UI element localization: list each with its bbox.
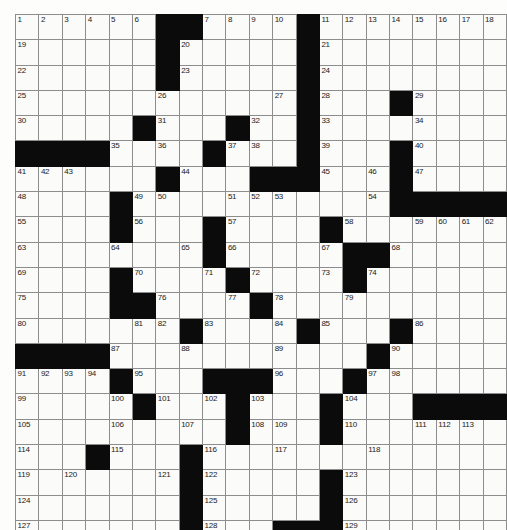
open-cell[interactable] [226, 343, 249, 368]
open-cell[interactable] [156, 445, 179, 470]
open-cell[interactable]: 88 [179, 343, 202, 368]
open-cell[interactable]: 29 [413, 90, 436, 115]
open-cell[interactable]: 112 [436, 419, 459, 444]
open-cell[interactable] [366, 217, 389, 242]
open-cell[interactable] [109, 65, 132, 90]
open-cell[interactable]: 67 [319, 242, 342, 267]
open-cell[interactable]: 20 [179, 40, 202, 65]
open-cell[interactable]: 11 [319, 15, 342, 40]
open-cell[interactable]: 81 [132, 318, 155, 343]
open-cell[interactable] [413, 470, 436, 495]
open-cell[interactable]: 113 [460, 419, 483, 444]
open-cell[interactable] [39, 470, 62, 495]
open-cell[interactable] [179, 394, 202, 419]
open-cell[interactable] [319, 293, 342, 318]
open-cell[interactable] [413, 65, 436, 90]
open-cell[interactable] [460, 116, 483, 141]
open-cell[interactable]: 55 [16, 217, 39, 242]
open-cell[interactable] [436, 445, 459, 470]
open-cell[interactable]: 95 [132, 369, 155, 394]
open-cell[interactable] [460, 495, 483, 520]
open-cell[interactable] [296, 242, 319, 267]
open-cell[interactable]: 108 [249, 419, 272, 444]
open-cell[interactable] [483, 470, 507, 495]
open-cell[interactable] [390, 394, 413, 419]
open-cell[interactable]: 71 [203, 267, 226, 292]
open-cell[interactable] [62, 116, 85, 141]
open-cell[interactable] [483, 369, 507, 394]
open-cell[interactable]: 120 [62, 470, 85, 495]
open-cell[interactable] [132, 40, 155, 65]
open-cell[interactable] [343, 192, 366, 217]
open-cell[interactable] [203, 293, 226, 318]
open-cell[interactable] [179, 192, 202, 217]
open-cell[interactable]: 39 [319, 141, 342, 166]
open-cell[interactable]: 87 [109, 343, 132, 368]
open-cell[interactable] [413, 242, 436, 267]
open-cell[interactable]: 57 [226, 217, 249, 242]
open-cell[interactable] [366, 65, 389, 90]
open-cell[interactable] [436, 318, 459, 343]
open-cell[interactable] [62, 192, 85, 217]
open-cell[interactable] [390, 470, 413, 495]
open-cell[interactable] [460, 445, 483, 470]
open-cell[interactable] [109, 90, 132, 115]
open-cell[interactable] [436, 166, 459, 191]
open-cell[interactable] [366, 40, 389, 65]
open-cell[interactable] [203, 116, 226, 141]
open-cell[interactable] [226, 445, 249, 470]
open-cell[interactable] [226, 470, 249, 495]
open-cell[interactable]: 54 [366, 192, 389, 217]
open-cell[interactable]: 98 [390, 369, 413, 394]
open-cell[interactable]: 45 [319, 166, 342, 191]
open-cell[interactable] [390, 419, 413, 444]
open-cell[interactable] [203, 419, 226, 444]
open-cell[interactable] [296, 394, 319, 419]
open-cell[interactable]: 89 [273, 343, 296, 368]
open-cell[interactable] [343, 343, 366, 368]
open-cell[interactable]: 10 [273, 15, 296, 40]
open-cell[interactable]: 4 [86, 15, 109, 40]
open-cell[interactable]: 114 [16, 445, 39, 470]
open-cell[interactable] [156, 217, 179, 242]
open-cell[interactable]: 129 [343, 520, 366, 530]
open-cell[interactable] [62, 394, 85, 419]
open-cell[interactable] [436, 141, 459, 166]
open-cell[interactable] [296, 217, 319, 242]
open-cell[interactable] [296, 369, 319, 394]
open-cell[interactable] [86, 495, 109, 520]
open-cell[interactable] [39, 419, 62, 444]
open-cell[interactable]: 75 [16, 293, 39, 318]
open-cell[interactable]: 101 [156, 394, 179, 419]
open-cell[interactable] [156, 267, 179, 292]
open-cell[interactable]: 60 [436, 217, 459, 242]
open-cell[interactable] [39, 217, 62, 242]
open-cell[interactable] [86, 192, 109, 217]
open-cell[interactable] [436, 90, 459, 115]
open-cell[interactable] [436, 65, 459, 90]
open-cell[interactable] [39, 495, 62, 520]
open-cell[interactable] [390, 293, 413, 318]
open-cell[interactable]: 2 [39, 15, 62, 40]
open-cell[interactable] [366, 318, 389, 343]
open-cell[interactable] [366, 394, 389, 419]
open-cell[interactable] [86, 166, 109, 191]
open-cell[interactable]: 24 [319, 65, 342, 90]
open-cell[interactable] [366, 470, 389, 495]
open-cell[interactable]: 115 [109, 445, 132, 470]
open-cell[interactable] [273, 65, 296, 90]
open-cell[interactable] [273, 470, 296, 495]
open-cell[interactable]: 51 [226, 192, 249, 217]
open-cell[interactable] [343, 318, 366, 343]
open-cell[interactable]: 90 [390, 343, 413, 368]
open-cell[interactable] [296, 343, 319, 368]
open-cell[interactable] [273, 141, 296, 166]
open-cell[interactable]: 42 [39, 166, 62, 191]
open-cell[interactable] [390, 65, 413, 90]
open-cell[interactable] [86, 267, 109, 292]
open-cell[interactable] [62, 445, 85, 470]
open-cell[interactable] [62, 90, 85, 115]
open-cell[interactable]: 56 [132, 217, 155, 242]
open-cell[interactable] [460, 141, 483, 166]
open-cell[interactable] [436, 293, 459, 318]
